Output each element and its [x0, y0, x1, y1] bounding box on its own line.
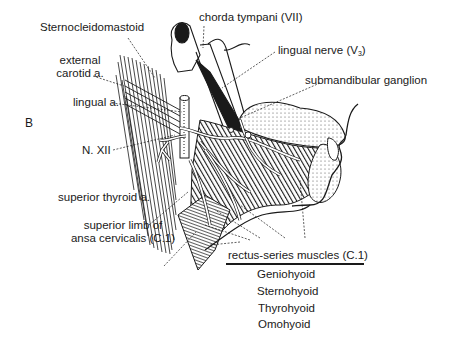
label-sternocleidomastoid: Sternocleidomastoid: [40, 21, 144, 34]
label-ansa-cervicalis: superior limb of ansa cervicalis (C.1): [70, 219, 176, 245]
muscle-item: Thyrohyoid: [258, 302, 315, 315]
anatomy-figure: Sternocleidomastoid chorda tympani (VII)…: [0, 0, 453, 341]
muscle-item: Sternohyoid: [257, 285, 318, 298]
label-lingual-nerve: lingual nerve (V3): [278, 44, 366, 60]
label-hypoglossal-nerve: N. XII: [82, 144, 111, 157]
panel-letter: B: [25, 116, 33, 130]
label-external-carotid: external carotid a.: [56, 54, 104, 80]
anatomy-drawing: [0, 0, 453, 341]
label-chorda-tympani: chorda tympani (VII): [199, 11, 303, 24]
muscle-item: Omohyoid: [258, 318, 310, 331]
infrahyoid-muscles: [178, 195, 230, 270]
label-lingual-artery: lingual a.: [73, 96, 119, 109]
label-superior-thyroid-artery: superior thyroid a.: [58, 191, 150, 204]
muscle-group-heading: rectus-series muscles (C.1): [228, 249, 368, 262]
muscle-item: Geniohyoid: [257, 268, 315, 281]
heading-underline: [226, 263, 364, 265]
label-submandibular-ganglion: submandibular ganglion: [305, 74, 427, 87]
